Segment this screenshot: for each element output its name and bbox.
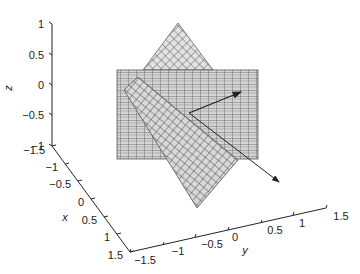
svg-text:1.5: 1.5 (108, 249, 123, 261)
z-axis-label: z (2, 85, 14, 92)
svg-text:−1: −1 (172, 245, 185, 257)
y-axis: −1.5 −1 −0.5 0 0.5 1 1.5 y (130, 205, 349, 266)
svg-text:1: 1 (104, 231, 110, 243)
x-axis: −1.5 −1 −0.5 0 0.5 1 1.5 x (23, 144, 134, 261)
svg-text:0: 0 (78, 196, 84, 208)
svg-text:−1.5: −1.5 (134, 254, 156, 266)
svg-text:1: 1 (38, 18, 44, 30)
y-axis-label: y (241, 244, 249, 256)
tilted-plane-diamond (143, 23, 213, 70)
x-axis-label: x (61, 211, 68, 223)
3d-plot: 1 0.5 0 −0.5 −1 z −1.5 −1 −0.5 0 0.5 1 1… (0, 0, 360, 274)
svg-text:−0.5: −0.5 (49, 178, 71, 190)
svg-text:−1: −1 (45, 161, 58, 173)
svg-text:1.5: 1.5 (333, 210, 348, 222)
z-axis: 1 0.5 0 −0.5 −1 z (2, 18, 52, 152)
svg-text:1: 1 (299, 217, 305, 229)
svg-text:0: 0 (232, 231, 238, 243)
svg-text:0: 0 (38, 79, 44, 91)
svg-text:−1.5: −1.5 (23, 144, 45, 156)
svg-text:0.5: 0.5 (82, 214, 97, 226)
svg-text:0.5: 0.5 (267, 224, 282, 236)
svg-text:−0.5: −0.5 (22, 109, 44, 121)
svg-text:−0.5: −0.5 (201, 238, 223, 250)
svg-text:0.5: 0.5 (29, 49, 44, 61)
